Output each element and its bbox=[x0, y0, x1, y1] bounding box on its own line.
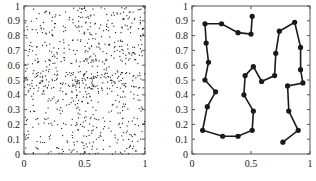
y-tick-label: 0.5 bbox=[8, 75, 21, 86]
path-marker bbox=[205, 104, 210, 109]
x-tick-label: 1 bbox=[308, 158, 313, 169]
scatter-points bbox=[24, 6, 146, 154]
path-marker bbox=[241, 92, 246, 97]
path-marker bbox=[213, 89, 218, 94]
path-marker bbox=[298, 45, 303, 50]
path-marker bbox=[204, 40, 209, 45]
y-tick-label: 0.8 bbox=[176, 30, 189, 41]
y-tick-label: 0.5 bbox=[176, 75, 189, 86]
plot-frame bbox=[24, 6, 145, 154]
y-tick-label: 1 bbox=[15, 1, 20, 12]
y-tick-label: 0.7 bbox=[176, 45, 189, 56]
y-tick-label: 0.9 bbox=[176, 15, 189, 26]
y-tick-label: 0 bbox=[15, 149, 20, 160]
y-tick-label: 0.6 bbox=[176, 60, 189, 71]
y-tick-label: 1 bbox=[183, 1, 188, 12]
y-tick-label: 0.6 bbox=[8, 60, 21, 71]
x-tick-label: 0.5 bbox=[245, 158, 258, 169]
x-tick-label: 1 bbox=[143, 158, 148, 169]
figure: 00.10.20.30.40.50.60.70.80.9100.5100.10.… bbox=[0, 0, 316, 181]
path-marker bbox=[300, 80, 305, 85]
y-tick-label: 0.2 bbox=[8, 119, 21, 130]
path-marker bbox=[273, 51, 278, 56]
y-tick-label: 0 bbox=[183, 149, 188, 160]
path-marker bbox=[285, 83, 290, 88]
path-marker bbox=[220, 134, 225, 139]
scatter-plot: 00.10.20.30.40.50.60.70.80.9100.51 bbox=[8, 1, 148, 170]
path-marker bbox=[286, 108, 291, 113]
y-tick-label: 0.8 bbox=[8, 30, 21, 41]
path-marker bbox=[277, 29, 282, 34]
path-marker bbox=[259, 79, 264, 84]
y-tick-label: 0.7 bbox=[8, 45, 21, 56]
path-marker bbox=[202, 77, 207, 82]
path-marker bbox=[298, 67, 303, 72]
path-marker bbox=[250, 14, 255, 19]
y-tick-label: 0.4 bbox=[176, 89, 189, 100]
x-tick-label: 0 bbox=[190, 158, 195, 169]
path-marker bbox=[280, 140, 285, 145]
path-marker bbox=[219, 21, 224, 26]
y-tick-label: 0.1 bbox=[176, 134, 189, 145]
x-tick-label: 0.5 bbox=[78, 158, 91, 169]
x-tick-label: 0 bbox=[22, 158, 27, 169]
path-marker bbox=[296, 128, 301, 133]
path-marker bbox=[202, 21, 207, 26]
y-tick-label: 0.3 bbox=[8, 104, 21, 115]
path-plot: 00.10.20.30.40.50.60.70.80.9100.51 bbox=[176, 1, 313, 170]
path-marker bbox=[200, 128, 205, 133]
y-tick-label: 0.9 bbox=[8, 15, 21, 26]
y-tick-label: 0.2 bbox=[176, 119, 189, 130]
path-marker bbox=[243, 73, 248, 78]
path-marker bbox=[235, 134, 240, 139]
path-marker bbox=[206, 60, 211, 65]
path-marker bbox=[292, 20, 297, 25]
path-marker bbox=[250, 128, 255, 133]
y-tick-label: 0.1 bbox=[8, 134, 21, 145]
path-marker bbox=[251, 64, 256, 69]
path-marker bbox=[272, 73, 277, 78]
path-marker bbox=[235, 30, 240, 35]
y-tick-label: 0.3 bbox=[176, 104, 189, 115]
y-tick-label: 0.4 bbox=[8, 89, 21, 100]
path-marker bbox=[251, 108, 256, 113]
path-marker bbox=[248, 32, 253, 37]
